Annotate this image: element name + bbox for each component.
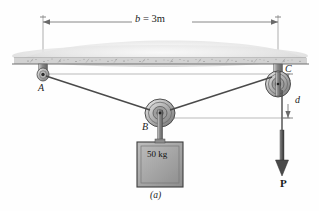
force-label-p: P xyxy=(280,178,287,189)
block-50kg xyxy=(137,139,183,187)
ceiling-slab xyxy=(12,40,309,67)
point-label-c: C xyxy=(285,64,292,74)
figure-container: b = 3m A B C d P 50 kg (a) xyxy=(0,0,319,211)
dimension-d-label: d xyxy=(295,95,300,105)
point-label-a: A xyxy=(38,83,44,93)
point-label-b: B xyxy=(142,122,148,132)
figure-caption: (a) xyxy=(150,191,161,201)
cable-a-to-b xyxy=(46,76,150,110)
cable-b-to-c xyxy=(170,77,272,110)
dimension-b-label: b = 3m xyxy=(135,14,165,25)
diagram-svg xyxy=(0,0,319,211)
force-arrow-p xyxy=(276,130,289,176)
pulley-b xyxy=(145,99,175,144)
support-bracket-a xyxy=(37,64,49,81)
block-mass-label: 50 kg xyxy=(147,150,167,159)
